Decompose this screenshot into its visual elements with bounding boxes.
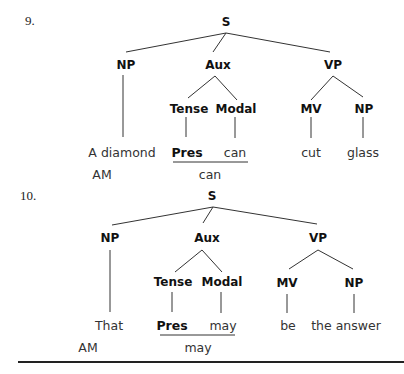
surface-aux: may — [184, 342, 211, 355]
leaf-object: glass — [347, 147, 379, 160]
node-modal: Modal — [202, 276, 243, 288]
tree-9-branches — [123, 33, 363, 162]
node-tense: Tense — [170, 103, 209, 115]
node-vp: VP — [309, 232, 327, 244]
node-mv: MV — [276, 277, 297, 289]
leaf-object: the answer — [311, 320, 381, 333]
node-np: NP — [101, 232, 120, 244]
node-s: S — [208, 190, 217, 202]
item-number: 9. — [25, 14, 35, 27]
leaf-tense: Pres — [171, 147, 202, 160]
leaf-main-verb: be — [280, 320, 296, 333]
node-np: NP — [117, 59, 136, 71]
surface-aux: can — [199, 169, 221, 182]
leaf-modal: may — [209, 320, 236, 333]
node-mv: MV — [300, 103, 321, 115]
node-tense: Tense — [154, 276, 193, 288]
leaf-subject: That — [95, 320, 123, 333]
node-np-object: NP — [355, 103, 374, 115]
leaf-subject: A diamond — [88, 147, 155, 160]
item-number: 10. — [20, 189, 36, 202]
node-aux: Aux — [194, 232, 220, 244]
node-vp: VP — [324, 59, 342, 71]
surface-am: AM — [78, 342, 97, 355]
leaf-modal: can — [224, 147, 246, 160]
node-modal: Modal — [216, 103, 257, 115]
surface-am: AM — [92, 169, 111, 182]
node-s: S — [222, 16, 231, 28]
tree-10-branches — [110, 207, 354, 335]
node-aux: Aux — [205, 59, 231, 71]
leaf-tense: Pres — [156, 320, 187, 333]
node-np-object: NP — [345, 277, 364, 289]
leaf-main-verb: cut — [301, 147, 321, 160]
